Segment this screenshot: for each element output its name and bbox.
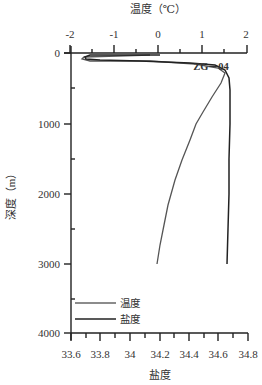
top-axis [64,45,247,53]
y-tick-label: 3000 [38,258,61,270]
legend: 温度 盐度 [75,297,141,325]
y-tick-label: 1000 [38,118,61,130]
top-tick-label: 2 [243,28,249,40]
bottom-axis [71,333,248,341]
y-axis-title: 深度（m） [4,168,17,221]
station-label: ZG－04 [193,61,229,72]
y-axis [64,46,75,340]
bottom-tick-label: 34.8 [238,348,258,360]
bottom-tick-label: 34.4 [179,348,199,360]
bottom-tick-label: 34.2 [150,348,169,360]
bottom-tick-label: 33.6 [61,348,81,360]
top-tick-label: -2 [65,28,74,40]
y-tick-label: 4000 [38,327,61,339]
bottom-tick-label: 34 [125,348,137,360]
top-tick-label: 0 [155,28,161,40]
top-axis-title: 温度（℃） [130,2,186,15]
ts-depth-profile-chart: 温度（℃） -2 -1 0 1 2 0 1000 2000 3000 4000 … [0,0,262,385]
legend-temp-label: 温度 [120,297,141,309]
legend-sal-label: 盐度 [120,313,141,325]
bottom-axis-title: 盐度 [149,368,171,381]
bottom-tick-label: 34.6 [208,348,228,360]
bottom-tick-label: 33.8 [90,348,110,360]
y-tick-label: 0 [55,47,61,59]
y-tick-label: 2000 [38,188,61,200]
salinity-curve [85,55,230,264]
temperature-curve [82,55,225,264]
top-tick-label: 1 [199,28,205,40]
top-tick-label: -1 [109,28,118,40]
